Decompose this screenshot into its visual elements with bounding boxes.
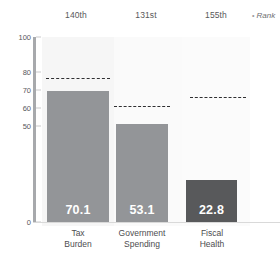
y-axis-line — [33, 37, 36, 222]
rank-label-fiscal-health: 155th — [180, 10, 252, 20]
category-label-government-spending: Government Spending — [106, 228, 178, 249]
y-tick-mark-60 — [36, 108, 41, 109]
bar-tax-burden: 70.1 — [47, 91, 109, 222]
y-tick-mark-50 — [36, 126, 41, 127]
rank-label-tax-burden: 140th — [40, 10, 112, 20]
bar-value-tax-burden: 70.1 — [47, 203, 109, 217]
y-tick-label-80: 80 — [0, 68, 31, 77]
average-marker-fiscal-health — [190, 97, 246, 98]
y-tick-label-100: 100 — [0, 33, 31, 42]
y-tick-mark-100 — [36, 37, 41, 38]
category-label-row: Tax Burden Government Spending Fiscal He… — [0, 228, 280, 259]
plot-area: 100 80 70 60 50 0 70.1 53.1 22.8 — [0, 30, 280, 226]
bar-government-spending: 53.1 — [116, 124, 168, 222]
legend-label: Rank — [256, 11, 275, 20]
y-tick-mark-80 — [36, 72, 41, 73]
rank-row: 140th 131st 155th •Rank — [0, 0, 280, 30]
rank-label-government-spending: 131st — [110, 10, 182, 20]
bar-fiscal-health: 22.8 — [186, 180, 237, 222]
y-tick-label-60: 60 — [0, 104, 31, 113]
bar-value-government-spending: 53.1 — [116, 203, 168, 217]
rank-legend: •Rank — [252, 11, 275, 20]
economic-freedom-bar-chart: 140th 131st 155th •Rank 100 80 70 60 50 … — [0, 0, 280, 259]
y-tick-label-50: 50 — [0, 122, 31, 131]
average-marker-government-spending — [114, 106, 170, 107]
average-marker-tax-burden — [46, 78, 110, 79]
bar-value-fiscal-health: 22.8 — [186, 203, 237, 217]
y-tick-label-70: 70 — [0, 86, 31, 95]
y-tick-label-0: 0 — [0, 218, 31, 227]
category-label-tax-burden: Tax Burden — [42, 228, 114, 249]
y-tick-mark-70 — [36, 90, 41, 91]
legend-dot-icon: • — [252, 12, 254, 19]
category-label-fiscal-health: Fiscal Health — [176, 228, 248, 249]
x-axis-baseline — [33, 222, 280, 223]
